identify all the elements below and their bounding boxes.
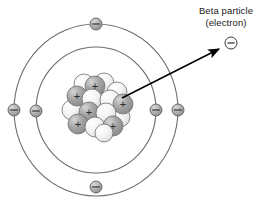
beta-particle-label-line1: Beta particle (186, 5, 266, 17)
atom-illustration: + + + + + + (0, 0, 267, 200)
electron-outer-right (172, 104, 184, 116)
beta-decay-diagram: + + + + + + (0, 0, 267, 200)
electron-outer-top (90, 18, 102, 30)
proton-charge-symbol: + (75, 118, 81, 130)
beta-particle-label-line2: (electron) (186, 17, 266, 29)
beta-emission-arrow (122, 49, 219, 98)
proton-charge-symbol: + (86, 106, 92, 118)
beta-particle-electron (225, 37, 237, 49)
atomic-nucleus: + + + + + + (62, 73, 133, 142)
proton-charge-symbol: + (74, 90, 80, 102)
proton-charge-symbol: + (120, 98, 126, 110)
beta-particle-label: Beta particle (electron) (186, 5, 266, 28)
nucleon-neutron (95, 124, 113, 142)
electron-outer-left (8, 104, 20, 116)
electron-outer-bottom (90, 181, 102, 193)
electron-inner-right (150, 104, 162, 116)
electron-inner-left (30, 105, 42, 117)
